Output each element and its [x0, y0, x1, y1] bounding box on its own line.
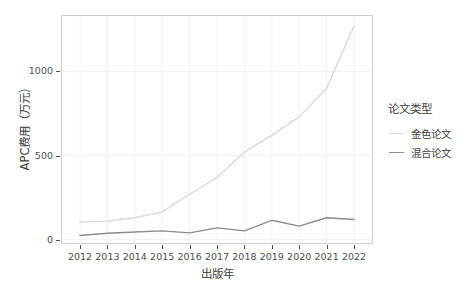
x-tick-label: 2022	[332, 252, 376, 262]
x-axis-title: 出版年	[61, 265, 373, 281]
legend: 论文类型 金色论文混合论文	[388, 100, 475, 163]
x-tick-mark	[107, 245, 108, 249]
x-tick-mark	[80, 245, 81, 249]
x-tick-mark	[299, 245, 300, 249]
y-axis-title: APC费用（万元）	[16, 16, 32, 236]
x-tick-mark	[327, 245, 328, 249]
x-tick-mark	[162, 245, 163, 249]
plot-panel	[61, 15, 373, 244]
x-tick-mark	[135, 245, 136, 249]
x-tick-mark	[217, 245, 218, 249]
legend-line-swatch-icon	[388, 127, 405, 141]
x-tick-mark	[190, 245, 191, 249]
apc-cost-line-chart: 05001000 2012201320142015201620172018201…	[0, 0, 475, 286]
x-tick-mark	[272, 245, 273, 249]
legend-item-label: 金色论文	[411, 126, 451, 141]
y-tick-mark	[56, 240, 60, 241]
legend-line-swatch-icon	[388, 146, 405, 160]
x-tick-mark	[244, 245, 245, 249]
legend-items: 金色论文混合论文	[388, 125, 475, 161]
y-tick-mark	[56, 71, 60, 72]
x-tick-mark	[354, 245, 355, 249]
plot-canvas	[62, 16, 372, 243]
y-tick-label: 0	[0, 235, 53, 245]
legend-item[interactable]: 金色论文	[388, 125, 475, 142]
legend-item[interactable]: 混合论文	[388, 144, 475, 161]
legend-item-label: 混合论文	[411, 145, 451, 160]
legend-title: 论文类型	[388, 100, 475, 116]
y-tick-mark	[56, 156, 60, 157]
